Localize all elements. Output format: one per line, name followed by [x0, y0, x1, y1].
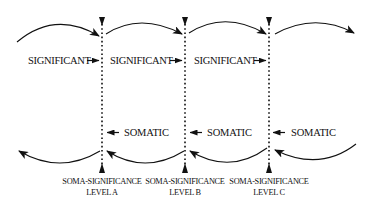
level-c-name: LEVEL C: [253, 188, 285, 197]
level-labels: SOMA-SIGNIFICANCE LEVEL A SOMA-SIGNIFICA…: [62, 177, 308, 197]
arrow-up-icon: [182, 163, 188, 173]
level-b-title: SOMA-SIGNIFICANCE: [145, 177, 224, 186]
arrow-up-icon: [99, 163, 105, 173]
somatic-label: SOMATIC: [291, 127, 336, 138]
significant-label: SIGNIFICANT: [28, 55, 92, 66]
curved-arrow-right-icon: [189, 22, 266, 34]
significant-labels: SIGNIFICANT SIGNIFICANT SIGNIFICANT: [28, 55, 266, 66]
bottom-arcs: [19, 144, 356, 163]
significant-label: SIGNIFICANT: [110, 55, 174, 66]
curved-arrow-left-icon: [275, 144, 356, 160]
curved-arrow-left-icon: [190, 148, 267, 162]
arrow-down-icon: [99, 17, 105, 26]
arrow-down-icon: [182, 17, 188, 26]
curved-arrow-right-icon: [275, 23, 354, 34]
level-a-title: SOMA-SIGNIFICANCE: [62, 177, 141, 186]
level-b-name: LEVEL B: [169, 188, 201, 197]
level-a-name: LEVEL A: [86, 188, 118, 197]
level-c-title: SOMA-SIGNIFICANCE: [229, 177, 308, 186]
arrow-down-icon: [266, 17, 272, 26]
curved-arrow-left-icon: [19, 151, 100, 163]
curved-arrow-right-icon: [17, 24, 99, 42]
curved-arrow-left-icon: [107, 151, 184, 163]
somatic-labels: SOMATIC SOMATIC SOMATIC: [107, 127, 336, 138]
level-lines: [102, 24, 269, 166]
somatic-label: SOMATIC: [207, 127, 252, 138]
significant-label: SIGNIFICANT: [194, 55, 258, 66]
soma-significance-diagram: SIGNIFICANT SIGNIFICANT SIGNIFICANT SOMA…: [0, 0, 374, 205]
curved-arrow-right-icon: [106, 23, 182, 34]
somatic-label: SOMATIC: [124, 127, 169, 138]
bottom-arrowheads: [99, 163, 272, 173]
arrow-up-icon: [266, 163, 272, 173]
